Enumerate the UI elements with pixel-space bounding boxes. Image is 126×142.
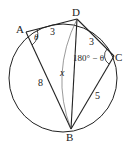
length-label-DB: x — [59, 67, 65, 78]
side-DC — [77, 19, 114, 56]
diagonal-DB — [71, 19, 77, 129]
angle-arc-C — [104, 49, 109, 64]
side-AB — [26, 32, 71, 129]
length-label-DC: 3 — [89, 36, 94, 47]
length-label-AB: 8 — [38, 77, 43, 88]
side-CB — [71, 56, 114, 129]
length-label-AD: 3 — [50, 26, 55, 37]
cyclic-quadrilateral-diagram: A D C B 3 3 5 8 x θ 180° − θ — [0, 0, 126, 142]
angle-label-A: θ — [34, 32, 39, 42]
point-label-D: D — [72, 6, 80, 18]
angle-label-C: 180° − θ — [73, 53, 104, 63]
point-label-B: B — [66, 131, 73, 142]
point-label-A: A — [16, 23, 24, 35]
point-label-C: C — [115, 51, 122, 63]
length-label-CB: 5 — [95, 90, 100, 101]
